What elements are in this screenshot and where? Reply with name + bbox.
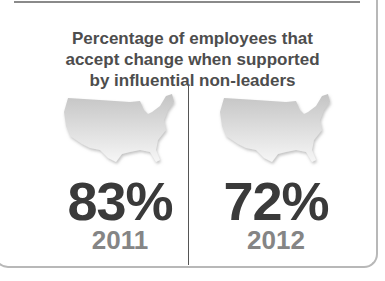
infographic-title: Percentage of employees that accept chan… (0, 28, 385, 91)
year-label: 2012 (196, 226, 356, 254)
percentage-value: 72% (196, 176, 356, 226)
percentage-value: 83% (40, 176, 200, 226)
title-line-1: Percentage of employees that (0, 28, 385, 49)
title-line-2: accept change when supported (0, 49, 385, 70)
year-label: 2011 (40, 226, 200, 254)
stat-2012: 72% 2012 (196, 90, 356, 254)
us-map-icon (216, 90, 336, 170)
title-line-3: by influential non-leaders (0, 70, 385, 91)
us-map-icon (60, 90, 180, 170)
stat-2011: 83% 2011 (40, 90, 200, 254)
